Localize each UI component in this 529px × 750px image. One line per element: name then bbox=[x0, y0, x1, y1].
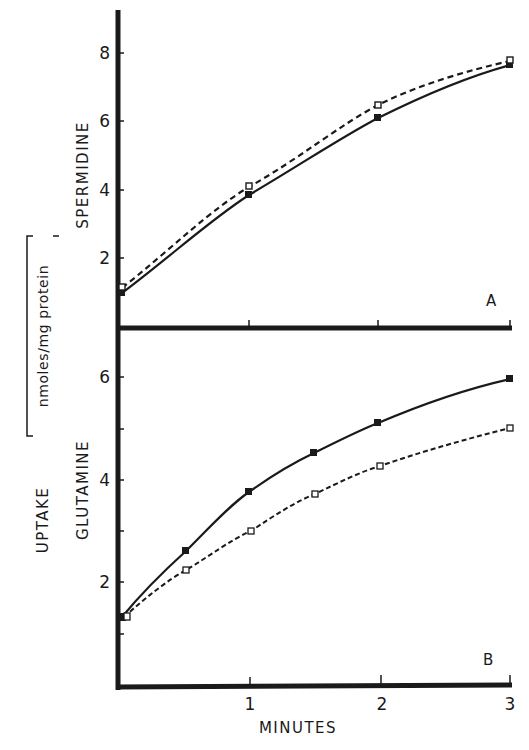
panel-a-ytick-label: 6 bbox=[99, 111, 110, 131]
panel-b-filled-markers bbox=[118, 375, 513, 621]
panel-b-ytick-label: 2 bbox=[99, 572, 110, 592]
panel-b-series-filled-line bbox=[122, 379, 510, 617]
panel-b-ylabel: GLUTAMINE bbox=[74, 440, 92, 540]
panel-b-open-markers bbox=[124, 425, 513, 620]
panel-a-ytick-label: 4 bbox=[99, 180, 110, 200]
shared-ylabel-prefix: UPTAKE bbox=[34, 487, 52, 554]
shared-ylabel: UPTAKE nmoles/mg protein bbox=[27, 236, 59, 553]
shared-ylabel-units: nmoles/mg protein bbox=[35, 265, 51, 408]
panel-b-series-open-line bbox=[124, 428, 510, 617]
panel-a: 8 6 4 2 SPERMIDINE A bbox=[74, 10, 513, 330]
panel-a-series-filled-line bbox=[122, 65, 510, 293]
panel-b-ytick-label: 6 bbox=[99, 367, 110, 387]
panel-a-ytick-label: 2 bbox=[99, 248, 110, 268]
panel-b-xtick-label: 2 bbox=[377, 694, 388, 714]
x-axis-label: MINUTES bbox=[259, 719, 337, 737]
panel-a-letter: A bbox=[486, 292, 497, 310]
figure: 8 6 4 2 SPERMIDINE A bbox=[0, 0, 529, 750]
panel-a-ytick-label: 8 bbox=[99, 43, 110, 63]
panel-a-ylabel: SPERMIDINE bbox=[74, 121, 92, 229]
panel-b-xtick-label: 3 bbox=[505, 694, 516, 714]
panel-b-ytick-label: 4 bbox=[99, 470, 110, 490]
panel-a-series-open-line bbox=[122, 61, 510, 288]
panel-b-letter: B bbox=[483, 651, 493, 669]
panel-b-xtick-label: 1 bbox=[245, 694, 256, 714]
panel-a-filled-markers bbox=[118, 61, 513, 296]
panel-b: 6 4 2 GLUTAMINE B 1 2 3 bbox=[74, 330, 515, 737]
panel-b-x-axis bbox=[116, 685, 512, 687]
panel-a-open-markers bbox=[119, 57, 513, 290]
